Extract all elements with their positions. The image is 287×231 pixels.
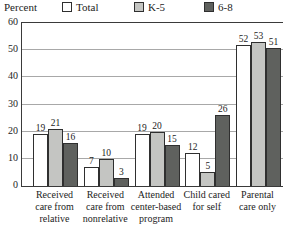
legend-swatch-k5	[134, 2, 144, 12]
bar-total: 12	[185, 153, 200, 186]
legend-swatch-total	[62, 2, 72, 12]
bar-value-label: 5	[205, 161, 210, 171]
bar-chart-figure: Percent Total K-5 6-8 192116710319201512…	[0, 0, 286, 231]
y-tick-label: 10	[0, 152, 18, 163]
bar-value-label: 12	[188, 142, 198, 152]
bar-6-8: 3	[114, 178, 129, 186]
bar-6-8: 51	[266, 48, 281, 187]
bar-group: 7103	[84, 159, 129, 186]
legend-label-6-8: 6-8	[218, 1, 233, 13]
y-tick-label: 30	[0, 98, 18, 109]
legend-swatch-6-8	[204, 2, 214, 12]
category-label: Parental care only	[223, 189, 287, 213]
legend-label-k5: K-5	[148, 1, 165, 13]
bar-value-label: 3	[119, 167, 124, 177]
legend-item-total: Total	[62, 1, 98, 13]
bar-k5: 21	[48, 129, 63, 186]
bar-6-8: 15	[165, 145, 180, 186]
bar-value-label: 20	[152, 121, 162, 131]
bar-value-label: 19	[36, 123, 46, 133]
bar-value-label: 19	[137, 123, 147, 133]
bar-6-8: 26	[215, 115, 230, 186]
bar-k5: 20	[150, 132, 165, 186]
y-tick-label: 20	[0, 125, 18, 136]
bar-value-label: 21	[51, 118, 61, 128]
bar-total: 52	[236, 45, 251, 186]
bar-total: 19	[33, 134, 48, 186]
bar-group: 192116	[33, 129, 78, 186]
plot-area: 192116710319201512526525351	[21, 22, 283, 187]
y-tick-label: 40	[0, 70, 18, 81]
bar-k5: 53	[251, 42, 266, 186]
bar-value-label: 26	[218, 104, 228, 114]
y-tick-label: 50	[0, 43, 18, 54]
bar-group: 192015	[135, 132, 180, 186]
y-tick-label: 60	[0, 16, 18, 27]
legend-item-k5: K-5	[134, 1, 165, 13]
legend-item-6-8: 6-8	[204, 1, 233, 13]
bar-value-label: 10	[102, 148, 112, 158]
bar-value-label: 53	[254, 31, 264, 41]
bar-total: 19	[135, 134, 150, 186]
bar-6-8: 16	[63, 143, 78, 187]
legend-label-total: Total	[76, 1, 98, 13]
bar-value-label: 52	[239, 34, 249, 44]
bar-value-label: 15	[167, 134, 177, 144]
bar-total: 7	[84, 167, 99, 186]
y-tick-label: 0	[0, 179, 18, 190]
bar-k5: 10	[99, 159, 114, 186]
bar-value-label: 7	[89, 156, 94, 166]
bar-k5: 5	[200, 172, 215, 186]
bar-group: 525351	[236, 42, 281, 186]
bar-value-label: 16	[66, 132, 76, 142]
bar-value-label: 51	[269, 37, 279, 47]
legend: Total K-5 6-8	[0, 1, 286, 15]
bar-group: 12526	[185, 115, 230, 186]
